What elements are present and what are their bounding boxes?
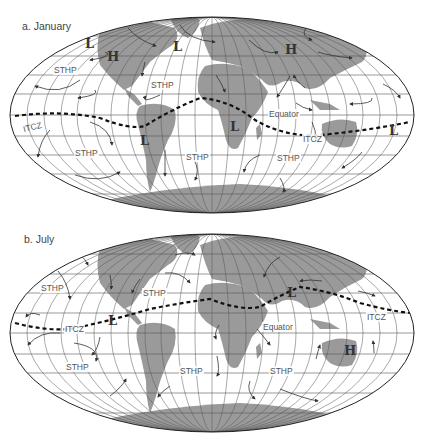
label-sthp: STHP — [142, 288, 167, 298]
low-pressure-symbol: L — [173, 40, 182, 54]
low-pressure-symbol: L — [230, 120, 239, 134]
label-sthp: STHP — [269, 366, 294, 376]
map-panel-january: a. January STHP STHP STHP STHP STHP Equa… — [0, 0, 421, 221]
label-sthp: STHP — [53, 65, 78, 75]
label-sthp: STHP — [40, 283, 65, 293]
label-sthp: STHP — [65, 362, 90, 372]
label-sthp: STHP — [179, 366, 204, 376]
label-itcz: ITCZ — [64, 324, 85, 334]
panel-title: b. July — [24, 233, 54, 245]
label-sthp: STHP — [185, 152, 210, 162]
label-sthp: STHP — [276, 153, 301, 163]
map-panel-july: b. July STHP STHP STHP STHP STHP STHP Eq… — [0, 221, 421, 442]
high-pressure-symbol: H — [344, 344, 356, 358]
label-sthp: STHP — [150, 80, 175, 90]
label-itcz: ITCZ — [302, 134, 323, 144]
low-pressure-symbol: L — [389, 124, 398, 138]
panel-title: a. January — [22, 20, 71, 32]
world-map-january — [0, 0, 421, 221]
high-pressure-symbol: H — [107, 50, 119, 64]
high-pressure-symbol: H — [285, 43, 297, 57]
label-sthp: STHP — [74, 148, 99, 158]
label-itcz: ITCZ — [366, 312, 387, 322]
low-pressure-symbol: L — [85, 37, 94, 51]
label-equator: Equator — [268, 109, 300, 119]
label-equator: Equator — [262, 322, 294, 332]
low-pressure-symbol: L — [140, 134, 149, 148]
low-pressure-symbol: L — [287, 286, 296, 300]
land-masses — [60, 16, 380, 221]
low-pressure-symbol: L — [108, 314, 117, 328]
